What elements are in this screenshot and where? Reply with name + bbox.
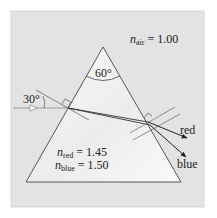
apex-angle-label: 60° (95, 67, 112, 79)
blue-ray-label: blue (177, 158, 198, 170)
incidence-angle-label: 30° (23, 93, 40, 105)
red-ray-label: red (180, 124, 195, 136)
n-air-label: nair = 1.00 (130, 33, 178, 47)
prism-diagram (0, 0, 217, 218)
n-blue-label: nblue = 1.50 (55, 159, 109, 173)
